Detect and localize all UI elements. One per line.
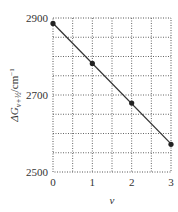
svg-text:ΔGv+½/cm−1: ΔGv+½/cm−1 xyxy=(8,68,23,123)
chart: 250027002900 0123 v ΔGv+½/cm−1 xyxy=(0,0,178,212)
y-label-sup: −1 xyxy=(8,68,16,76)
y-tick-label: 2900 xyxy=(26,12,49,24)
y-label-sub: v+½ xyxy=(14,92,23,107)
y-label-unit: /cm xyxy=(8,75,20,92)
data-point xyxy=(50,21,55,26)
y-tick-label: 2500 xyxy=(26,166,49,178)
y-label-main: ΔG xyxy=(8,107,20,122)
x-tick-label: 2 xyxy=(129,176,135,188)
data-point xyxy=(129,100,134,105)
x-axis-ticks: 0123 xyxy=(50,176,174,188)
y-axis-label: ΔGv+½/cm−1 xyxy=(8,68,23,123)
x-tick-label: 3 xyxy=(168,176,174,188)
y-axis-ticks: 250027002900 xyxy=(26,12,49,178)
data-point xyxy=(90,61,95,66)
x-tick-label: 0 xyxy=(50,176,56,188)
x-tick-label: 1 xyxy=(90,176,96,188)
x-axis-label: v xyxy=(110,194,115,206)
data-point xyxy=(168,142,173,147)
y-tick-label: 2700 xyxy=(26,89,49,101)
